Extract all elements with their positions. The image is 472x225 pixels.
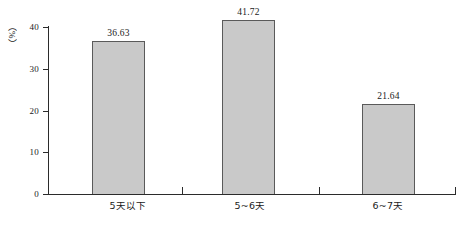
y-tick-label-40: 40: [18, 23, 39, 32]
y-tick-label-10: 10: [18, 148, 39, 157]
bar-1: [92, 41, 145, 194]
x-tick-separator-1: [182, 187, 183, 195]
y-tick-label-0: 0: [18, 190, 39, 199]
y-tick-label-30: 30: [18, 65, 39, 74]
x-tick-separator-2: [319, 187, 320, 195]
y-tick-mark-20: [43, 111, 49, 112]
bar-3: [362, 104, 415, 194]
bar-2: [222, 20, 275, 194]
bar-1-value-label: 36.63: [82, 28, 155, 38]
bar-3-value-label: 21.64: [352, 91, 425, 101]
y-tick-mark-30: [43, 69, 49, 70]
x-tick-end: [455, 187, 456, 195]
x-axis-line: [48, 194, 456, 195]
bar-2-value-label: 41.72: [212, 7, 285, 17]
y-tick-label-20: 20: [18, 107, 39, 116]
y-tick-mark-0: [43, 194, 49, 195]
x-category-label-2: 5~6天: [200, 200, 300, 211]
y-tick-mark-40: [43, 27, 49, 28]
y-tick-mark-10: [43, 152, 49, 153]
x-category-label-3: 6~7天: [338, 200, 438, 211]
bar-chart-figure: （%） 40 30 20 10 0 36.63 41.72 21.64 5天以下…: [0, 0, 472, 225]
x-category-label-1: 5天以下: [78, 200, 178, 211]
